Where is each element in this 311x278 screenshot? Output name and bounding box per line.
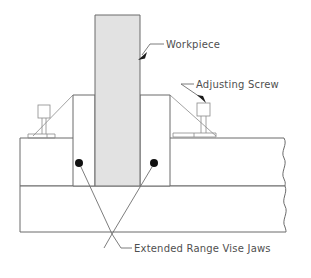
workpiece-label: Workpiece (166, 39, 220, 50)
left-screw-seat-plate (28, 134, 55, 138)
adjusting-screw-label: Adjusting Screw (196, 79, 279, 90)
left-adjusting-screw-head (38, 105, 50, 118)
vise-jaws-label: Extended Range Vise Jaws (134, 243, 271, 254)
left-support-wedge-group (28, 95, 73, 138)
right-vise-jaw (140, 95, 170, 186)
adjusting-screw-arrowhead (197, 95, 206, 103)
workpiece-callout: Workpiece (138, 39, 220, 60)
vise-diagram-figure: Workpiece Adjusting Screw Extended Range… (0, 0, 311, 278)
workpiece-block (95, 15, 140, 186)
adjusting-screw-callout: Adjusting Screw (181, 79, 279, 103)
left-adjusting-screw-group (38, 105, 50, 134)
vise-body-lower-slab (20, 186, 286, 232)
right-jaw-marker (150, 159, 158, 167)
right-screw-seat-plate (173, 133, 216, 137)
left-vise-jaw (73, 95, 95, 186)
right-adjusting-screw-head (197, 103, 210, 116)
technical-drawing-canvas: Workpiece Adjusting Screw Extended Range… (0, 0, 311, 278)
workpiece-leader-line (142, 44, 164, 55)
left-jaw-marker (75, 159, 83, 167)
